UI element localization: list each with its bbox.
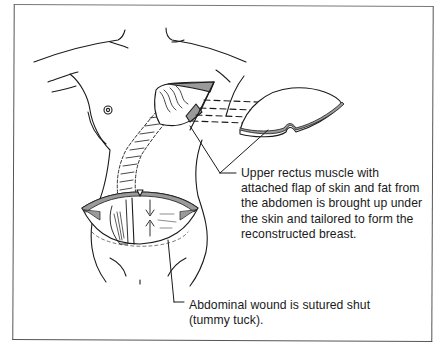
callout-flap-description: Upper rectus muscle with attached flap o… — [241, 166, 422, 242]
tailored-breast-flap — [240, 88, 344, 137]
callout-line: attached flap of skin and fat from — [241, 181, 422, 196]
callout-line: the abdomen is brought up under — [241, 196, 422, 211]
abdominal-wound — [82, 190, 198, 246]
callout-line: reconstructed breast. — [241, 227, 422, 242]
callout-line: (tummy tuck). — [189, 313, 370, 328]
callout-line: the skin and tailored to form the — [241, 212, 422, 227]
callout-wound-description: Abdominal wound is sutured shut (tummy t… — [189, 298, 370, 328]
rectus-muscle-flap — [155, 82, 214, 130]
callout-line: Upper rectus muscle with — [241, 166, 422, 181]
callout-line: Abdominal wound is sutured shut — [189, 298, 370, 313]
torso-outline — [34, 28, 246, 286]
